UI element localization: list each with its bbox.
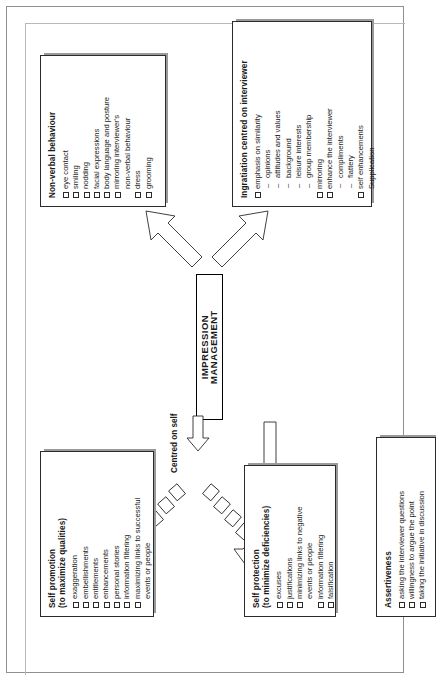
ingratiation-item[interactable]: emphasis on similarity — [253, 30, 263, 198]
central-title-label: IMPRESSION MANAGEMENT — [199, 310, 219, 384]
ingratiation-item: leisure interests — [294, 30, 304, 198]
self-protection-item[interactable]: falsification — [326, 474, 336, 608]
self-promotion-item[interactable]: personal stories — [112, 460, 122, 608]
node-self-protection-list: excusesjustificationsminimizing links to… — [274, 474, 336, 608]
self-protection-item[interactable]: information filtering — [316, 474, 326, 608]
node-assertiveness-list: asking the interviewer questionswillingn… — [397, 446, 428, 608]
self-promotion-item[interactable]: embellishments — [81, 460, 91, 608]
non-verbal-item[interactable]: facial expressions — [92, 64, 102, 198]
node-ingratiation: Ingratiation centred on interviewer emph… — [232, 21, 372, 207]
self-protection-item: events or people — [305, 474, 315, 608]
ingratiation-item: compliments — [336, 30, 346, 198]
ingratiation-item: opinions — [263, 30, 273, 198]
arrow-to-ingratiation — [212, 205, 270, 267]
non-verbal-item[interactable]: smiling — [71, 64, 81, 198]
ingratiation-item: group membership — [304, 30, 314, 198]
ingratiation-item: Supplication — [367, 30, 377, 198]
node-non-verbal-behaviour-title: Non-verbal behaviour — [48, 64, 58, 198]
self-protection-item[interactable]: minimizing links to negative — [295, 474, 305, 608]
node-self-promotion: Self promotion (to maximize qualities) e… — [40, 451, 154, 617]
node-ingratiation-list: emphasis on similarityopinionsattitudes … — [253, 30, 377, 198]
non-verbal-item: non-verbal behaviour — [123, 64, 133, 198]
ingratiation-item: attitudes and values — [273, 30, 283, 198]
self-promotion-item[interactable]: entitlements — [91, 460, 101, 608]
self-promotion-item[interactable]: maximizing links to successful — [133, 460, 143, 608]
ingratiation-item[interactable]: mirroring — [315, 30, 325, 198]
node-assertiveness-title: Assertiveness — [384, 446, 394, 608]
non-verbal-item[interactable]: dress — [133, 64, 143, 198]
non-verbal-item[interactable]: eye contact — [61, 64, 71, 198]
node-assertiveness: Assertivenessasking the interviewer ques… — [376, 437, 436, 617]
arrow-title-to-centred-on-self — [186, 415, 210, 451]
ingratiation-item: background — [284, 30, 294, 198]
non-verbal-item[interactable]: grooming — [144, 64, 154, 198]
arrow-to-non-verbal-behaviour — [146, 205, 204, 267]
central-title-impression-management: IMPRESSION MANAGEMENT — [196, 274, 223, 420]
node-self-promotion-title: Self promotion (to maximize qualities) — [48, 460, 67, 608]
non-verbal-item[interactable]: nodding — [81, 64, 91, 198]
node-ingratiation-title: Ingratiation centred on interviewer — [240, 30, 250, 198]
diagram-canvas: IMPRESSION MANAGEMENT Centred on self Se… — [20, 15, 392, 667]
node-non-verbal-behaviour-list: eye contactsmilingnoddingfacial expressi… — [61, 64, 154, 198]
assertiveness-item[interactable]: willingness to argue the point — [407, 446, 417, 608]
ingratiation-item: flattery — [346, 30, 356, 198]
ingratiation-item[interactable]: self enhancements — [356, 30, 366, 198]
non-verbal-item[interactable]: body language and posture — [102, 64, 112, 198]
self-promotion-item: events or people — [143, 460, 153, 608]
self-promotion-item[interactable]: enhancements — [101, 460, 111, 608]
assertiveness-item[interactable]: asking the interviewer questions — [397, 446, 407, 608]
self-promotion-item[interactable]: information filtering — [122, 460, 132, 608]
non-verbal-item[interactable]: mirroring interviewer's — [112, 64, 122, 198]
node-self-promotion-list: exaggerationembellishmentsentitlementsen… — [70, 460, 152, 608]
self-promotion-item[interactable]: exaggeration — [70, 460, 80, 608]
self-protection-item[interactable]: justifications — [285, 474, 295, 608]
node-self-protection: Self protection (to minimize deficiencie… — [244, 465, 336, 617]
node-non-verbal-behaviour: Non-verbal behaviour eye contactsmilingn… — [40, 55, 166, 207]
assertiveness-item[interactable]: taking the initiative in discussion — [417, 446, 427, 608]
ingratiation-item[interactable]: enhance the interviewer — [325, 30, 335, 198]
node-self-protection-title: Self protection (to minimize deficiencie… — [252, 474, 271, 608]
self-protection-item[interactable]: excuses — [274, 474, 284, 608]
